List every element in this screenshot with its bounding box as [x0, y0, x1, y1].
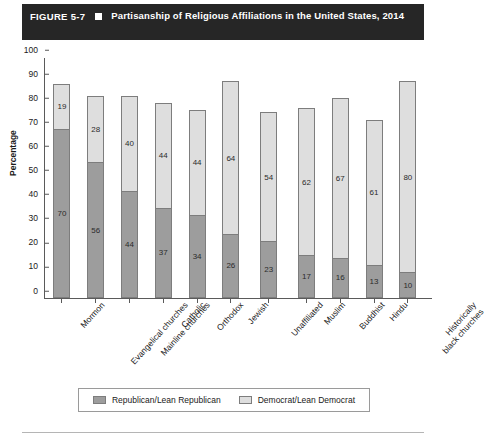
bar-segment-republican[interactable]: 26: [223, 235, 238, 297]
bar-value-democrat: 54: [264, 173, 273, 182]
stacked-bar[interactable]: 6426: [222, 81, 239, 298]
axes: 1009080706050403020100 19702856404444374…: [44, 58, 434, 303]
y-tick-mark: [45, 50, 49, 51]
category-label-muslim: Muslim: [321, 300, 346, 327]
y-tick-100: 100: [24, 45, 44, 54]
bar-value-democrat: 62: [302, 178, 311, 187]
stacked-bar[interactable]: 8010: [399, 81, 416, 298]
y-tick-40: 40: [29, 190, 44, 199]
figure-header: FIGURE 5-7 Partisanship of Religious Aff…: [22, 4, 424, 40]
category-label-orthodox: Orthodox: [215, 300, 246, 333]
bar-slot: 4044: [113, 57, 147, 298]
bar-segment-democrat[interactable]: 61: [367, 121, 382, 266]
bar-segment-republican[interactable]: 70: [54, 130, 69, 297]
bar-segment-democrat[interactable]: 64: [223, 82, 238, 235]
category-label-buddhist: Buddhist: [357, 300, 387, 331]
legend-swatch-republican-icon: [93, 396, 106, 404]
bar-segment-republican[interactable]: 37: [156, 209, 171, 297]
bar-value-democrat: 28: [91, 125, 100, 134]
bar-segment-republican[interactable]: 17: [299, 256, 314, 297]
x-axis-category-labels: MormonEvangelical churchesMainline churc…: [45, 300, 435, 386]
bar-segment-democrat[interactable]: 62: [299, 109, 314, 257]
bar-segment-democrat[interactable]: 28: [88, 97, 103, 164]
bar-segment-democrat[interactable]: 44: [190, 111, 205, 216]
y-tick-90: 90: [29, 69, 44, 78]
bar-segment-republican[interactable]: 10: [400, 273, 415, 297]
y-tick-70: 70: [29, 118, 44, 127]
bar-slot: 5423: [248, 57, 290, 298]
y-tick-80: 80: [29, 93, 44, 102]
stacked-bar[interactable]: 2856: [87, 96, 104, 298]
y-axis-label: Percentage: [8, 130, 18, 176]
bar-value-republican: 26: [226, 261, 235, 270]
stacked-bar[interactable]: 1970: [53, 84, 70, 298]
legend-swatch-democrat-icon: [239, 396, 252, 404]
bar-value-democrat: 64: [226, 154, 235, 163]
stacked-bar[interactable]: 4434: [189, 110, 206, 298]
bar-segment-democrat[interactable]: 54: [261, 113, 276, 242]
bar-segment-democrat[interactable]: 80: [400, 82, 415, 273]
bar-slot: 6426: [214, 57, 248, 298]
bar-value-republican: 10: [403, 281, 412, 290]
stacked-bar[interactable]: 6716: [332, 98, 349, 298]
bar-segment-republican[interactable]: 44: [122, 192, 137, 297]
bar-value-republican: 37: [159, 248, 168, 257]
chart-plot-area: Percentage 1009080706050403020100 197028…: [0, 48, 446, 310]
bar-value-republican: 23: [264, 265, 273, 274]
y-tick-0: 0: [33, 286, 44, 295]
bar-slot: 6217: [290, 57, 324, 298]
legend-label-republican: Republican/Lean Republican: [112, 395, 221, 405]
filled-square-icon: [95, 13, 102, 20]
bar-value-republican: 13: [370, 277, 379, 286]
figure-number: FIGURE 5-7: [30, 10, 85, 22]
stacked-bar[interactable]: 4437: [155, 103, 172, 298]
bar-value-democrat: 44: [193, 158, 202, 167]
bar-segment-democrat[interactable]: 19: [54, 85, 69, 130]
y-tick-20: 20: [29, 238, 44, 247]
bar-value-democrat: 80: [403, 173, 412, 182]
stacked-bar[interactable]: 6217: [298, 108, 315, 298]
stacked-bar[interactable]: 4044: [121, 96, 138, 298]
bar-segment-republican[interactable]: 34: [190, 216, 205, 297]
bar-segment-republican[interactable]: 16: [333, 259, 348, 297]
bar-value-democrat: 19: [57, 102, 66, 111]
category-label-jewish: Jewish: [245, 300, 270, 326]
y-tick-30: 30: [29, 214, 44, 223]
category-label-unaffiliated: Unaffiliated: [289, 300, 325, 338]
bar-value-democrat: 44: [159, 151, 168, 160]
legend-item-republican: Republican/Lean Republican: [93, 395, 221, 405]
bar-value-democrat: 40: [125, 139, 134, 148]
bar-slot: 1970: [45, 57, 79, 298]
bar-slot: 6113: [357, 57, 391, 298]
bar-series-group: 1970285640444437443464265423621767166113…: [45, 57, 433, 298]
bar-slot: 2856: [79, 57, 113, 298]
bar-slot: 4434: [180, 57, 214, 298]
y-tick-50: 50: [29, 166, 44, 175]
stacked-bar[interactable]: 5423: [260, 112, 277, 298]
y-tick-60: 60: [29, 142, 44, 151]
figure-title: Partisanship of Religious Affiliations i…: [111, 10, 404, 23]
bar-segment-democrat[interactable]: 67: [333, 99, 348, 259]
bar-segment-republican[interactable]: 56: [88, 163, 103, 297]
bar-segment-republican[interactable]: 23: [261, 242, 276, 297]
bar-value-republican: 34: [193, 252, 202, 261]
bar-value-republican: 44: [125, 240, 134, 249]
bar-segment-republican[interactable]: 13: [367, 266, 382, 297]
category-label-hindu: Hindu: [387, 300, 409, 323]
bottom-divider: [22, 432, 424, 433]
legend-item-democrat: Democrat/Lean Democrat: [239, 395, 355, 405]
bar-value-republican: 16: [336, 273, 345, 282]
bar-value-republican: 17: [302, 272, 311, 281]
bar-segment-democrat[interactable]: 44: [156, 104, 171, 209]
y-tick-10: 10: [29, 262, 44, 271]
bar-value-republican: 56: [91, 226, 100, 235]
stacked-bar[interactable]: 6113: [366, 120, 383, 298]
bar-segment-democrat[interactable]: 40: [122, 97, 137, 192]
bar-slot: 6716: [323, 57, 357, 298]
bar-value-democrat: 61: [370, 188, 379, 197]
bar-value-democrat: 67: [336, 174, 345, 183]
bar-slot: 4437: [146, 57, 180, 298]
chart-legend: Republican/Lean Republican Democrat/Lean…: [78, 388, 370, 412]
legend-label-democrat: Democrat/Lean Democrat: [258, 395, 355, 405]
